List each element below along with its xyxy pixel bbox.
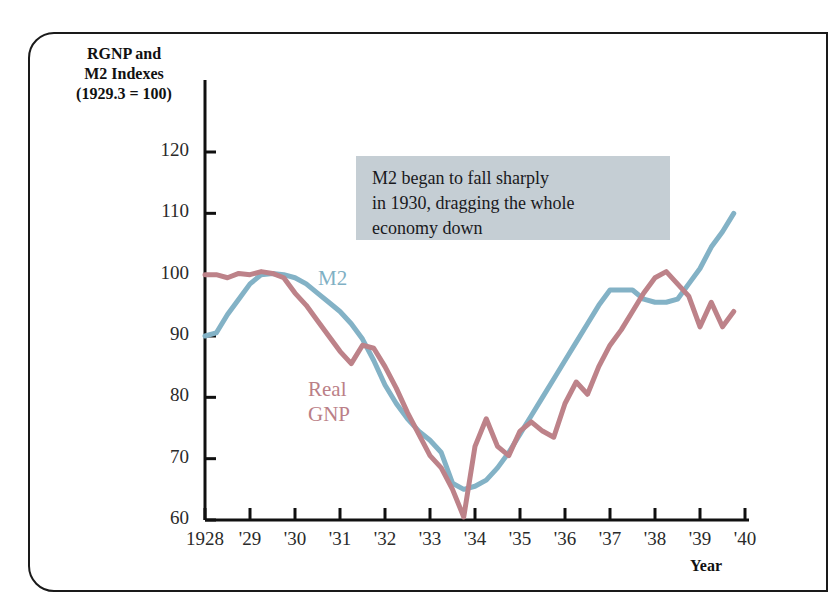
y-tick-label: 110 [129, 200, 189, 222]
y-tick-label: 120 [129, 139, 189, 161]
y-tick-label: 90 [129, 323, 189, 345]
series-line-m2 [205, 213, 734, 489]
y-tick-label: 70 [129, 446, 189, 468]
y-tick-label: 60 [129, 507, 189, 529]
series-line-real-gnp [205, 272, 734, 517]
x-axis-ticks [205, 508, 745, 520]
y-tick-label: 80 [129, 384, 189, 406]
data-series-group [205, 213, 734, 517]
x-tick-label: '40 [715, 528, 775, 550]
y-tick-label: 100 [129, 262, 189, 284]
